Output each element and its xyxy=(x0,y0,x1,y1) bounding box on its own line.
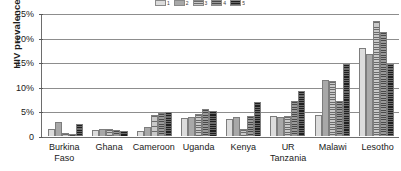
y-axis-tick: 0 xyxy=(39,137,43,138)
legend-label: 5 xyxy=(242,0,245,6)
bar xyxy=(315,115,322,136)
bar-group-cameroon xyxy=(132,14,176,136)
y-axis-tick-label: 25% xyxy=(16,14,34,15)
legend-swatch-series-5 xyxy=(230,0,241,6)
y-axis-tick-label: 10% xyxy=(16,87,34,88)
legend-entry: 5 xyxy=(230,0,245,6)
bar xyxy=(99,129,106,136)
bar-group-ghana xyxy=(88,14,132,136)
x-axis-label-line: Kenya xyxy=(221,142,266,153)
bar xyxy=(277,117,284,136)
bar xyxy=(188,117,195,136)
y-axis-tick-label: 15% xyxy=(16,63,34,64)
x-axis-label-malawi: Malawi xyxy=(311,141,356,169)
bar xyxy=(151,115,158,136)
x-axis-label-uganda: Uganda xyxy=(176,141,221,169)
bar xyxy=(113,130,120,136)
bar xyxy=(209,111,216,136)
bar xyxy=(144,127,151,136)
bar-group-lesotho xyxy=(354,14,398,136)
plot-wrapper: 25%20%15%10%5%0 xyxy=(41,14,399,139)
bar xyxy=(165,112,172,136)
x-axis-label-lesotho: Lesotho xyxy=(355,141,400,169)
bar xyxy=(137,131,144,136)
bar-group-uganda xyxy=(177,14,221,136)
x-axis-label-line: Cameroon xyxy=(132,142,177,153)
bar xyxy=(366,54,373,136)
bar-group-burkina-faso xyxy=(43,14,87,136)
legend-entry: 3 xyxy=(193,0,208,6)
x-axis-label-line: Lesotho xyxy=(355,142,400,153)
y-axis-tick: 25% xyxy=(39,14,43,15)
legend-label: 1 xyxy=(167,0,170,6)
legend-swatch-series-3 xyxy=(193,0,204,6)
x-axis-label-line: Tanzania xyxy=(266,153,311,164)
y-axis-tick: 20% xyxy=(39,39,43,40)
plot-area: 25%20%15%10%5%0 xyxy=(41,14,399,138)
legend-label: 4 xyxy=(223,0,226,6)
chart-legend: 12345 xyxy=(155,0,245,7)
bar xyxy=(158,113,165,136)
y-axis-tick-label: 20% xyxy=(16,38,34,39)
hiv-prevalence-bar-chart: 12345 HIV prevalence 25%20%15%10%5%0 Bur… xyxy=(0,0,401,171)
bar xyxy=(120,131,127,135)
x-axis-label-cameroon: Cameroon xyxy=(132,141,177,169)
x-axis-label-line: Burkina xyxy=(42,142,87,153)
x-axis-label-kenya: Kenya xyxy=(221,141,266,169)
x-axis-label-burkina-faso: BurkinaFaso xyxy=(42,141,87,169)
bar xyxy=(322,80,329,136)
x-axis-label-line: Malawi xyxy=(311,142,356,153)
bar xyxy=(387,64,394,136)
bar xyxy=(380,32,387,136)
x-axis-label-line: Faso xyxy=(42,153,87,164)
y-axis-tick: 10% xyxy=(39,88,43,89)
bar xyxy=(55,122,62,136)
bar xyxy=(92,130,99,136)
x-axis-label-line: Uganda xyxy=(176,142,221,153)
y-axis-tick: 15% xyxy=(39,63,43,64)
legend-swatch-series-2 xyxy=(174,0,185,6)
bar xyxy=(240,129,247,136)
bar xyxy=(329,81,336,136)
legend-entry: 2 xyxy=(174,0,189,6)
bar xyxy=(226,119,233,136)
x-axis-label-line: Ghana xyxy=(87,142,132,153)
bar-groups xyxy=(43,14,399,136)
bar xyxy=(106,129,113,136)
bar xyxy=(336,101,343,136)
legend-label: 2 xyxy=(186,0,189,6)
bar-group-malawi xyxy=(310,14,354,136)
bar xyxy=(233,117,240,136)
x-axis-label-ghana: Ghana xyxy=(87,141,132,169)
bar xyxy=(195,114,202,136)
bar xyxy=(343,64,350,136)
bar xyxy=(254,102,261,136)
legend-swatch-series-1 xyxy=(155,0,166,6)
legend-label: 3 xyxy=(205,0,208,6)
bar xyxy=(270,116,277,136)
bar xyxy=(181,118,188,136)
legend-entry: 1 xyxy=(155,0,170,6)
bar xyxy=(373,21,380,136)
bar-group-kenya xyxy=(221,14,265,136)
legend-entry: 4 xyxy=(211,0,226,6)
y-axis-tick: 5% xyxy=(39,112,43,113)
bar xyxy=(69,134,76,135)
x-axis-label-ur-tanzania: URTanzania xyxy=(266,141,311,169)
bar-group-ur-tanzania xyxy=(266,14,310,136)
y-axis-tick-label: 0 xyxy=(29,136,34,137)
bar xyxy=(284,116,291,136)
bar xyxy=(48,129,55,136)
x-axis-category-labels: BurkinaFasoGhanaCameroonUgandaKenyaURTan… xyxy=(42,141,400,169)
bar xyxy=(62,133,69,136)
legend-swatch-series-4 xyxy=(211,0,222,6)
y-axis-tick-label: 5% xyxy=(21,112,34,113)
bar xyxy=(298,91,305,136)
bar xyxy=(202,109,209,136)
bar xyxy=(291,101,298,136)
bar xyxy=(76,124,83,136)
x-axis-label-line: UR xyxy=(266,142,311,153)
bar xyxy=(359,48,366,136)
bar xyxy=(247,116,254,136)
